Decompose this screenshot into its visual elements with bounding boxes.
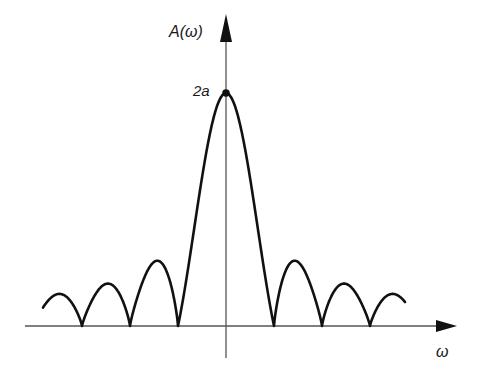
amplitude-curve (43, 93, 405, 326)
spectrum-plot (0, 0, 484, 388)
y-axis-arrow-icon (220, 14, 232, 42)
peak-dot (222, 89, 230, 97)
spectrum-diagram: A(ω) 2a ω (0, 0, 484, 388)
y-axis-label: A(ω) (169, 24, 203, 40)
x-axis-label: ω (436, 344, 448, 360)
x-axis-arrow-icon (436, 320, 457, 332)
peak-value-label: 2a (193, 83, 210, 98)
